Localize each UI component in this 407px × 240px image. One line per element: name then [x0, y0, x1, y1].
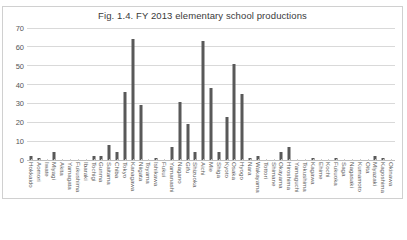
- bar-slot: [184, 28, 192, 160]
- x-axis-tick-mark: [94, 159, 95, 161]
- x-axis-tick-mark: [39, 159, 40, 161]
- x-axis-tick-label: Chiba: [114, 162, 120, 178]
- x-axis-tick-label: Nara: [247, 162, 253, 175]
- bar[interactable]: [108, 145, 111, 160]
- x-axis-label-slot: Hiroshima: [285, 161, 293, 202]
- x-axis-tick-label: Hiroshima: [286, 162, 292, 190]
- x-axis-tick-mark: [62, 159, 63, 161]
- x-axis-tick-mark: [227, 159, 228, 161]
- bar-slot: [301, 28, 309, 160]
- x-axis-tick-mark: [336, 159, 337, 161]
- bar-slot: [270, 28, 278, 160]
- y-axis-tick-label: 50: [16, 61, 24, 70]
- y-axis-tick-label: 60: [16, 42, 24, 51]
- bar-slot: [285, 28, 293, 160]
- bar-slot: [191, 28, 199, 160]
- x-axis-label-slot: Shimane: [270, 161, 278, 202]
- x-axis-label-slot: Shizuoka: [191, 161, 199, 202]
- bar[interactable]: [123, 92, 126, 160]
- y-axis-tick-label: 10: [16, 137, 24, 146]
- x-axis-label-slot: Tokyo: [121, 161, 129, 202]
- x-axis-tick-mark: [156, 159, 157, 161]
- x-axis-label-slot: Niigata: [137, 161, 145, 202]
- x-axis-tick-label: Osaka: [231, 162, 237, 180]
- x-axis-label-slot: Nagano: [176, 161, 184, 202]
- x-axis-tick-label: Yamaguchi: [294, 162, 300, 193]
- y-axis-tick-label: 40: [16, 80, 24, 89]
- bar-slot: [43, 28, 51, 160]
- bar-slot: [293, 28, 301, 160]
- x-axis-tick-mark: [289, 159, 290, 161]
- x-axis-label-slot: Akita: [58, 161, 66, 202]
- bar-slot: [74, 28, 82, 160]
- x-axis-tick-label: Saga: [341, 162, 347, 176]
- x-axis-label-slot: Ishikawa: [152, 161, 160, 202]
- x-axis-tick-label: Niigata: [137, 162, 143, 181]
- bar[interactable]: [186, 124, 189, 160]
- x-axis-tick-label: Kanagawa: [130, 162, 136, 191]
- bar[interactable]: [233, 64, 236, 160]
- bar-slot: [223, 28, 231, 160]
- x-axis-label-slot: Gifu: [184, 161, 192, 202]
- x-axis-label-slot: Hyogo: [238, 161, 246, 202]
- x-axis-tick-mark: [234, 159, 235, 161]
- x-axis-tick-label: Ehime: [317, 162, 323, 180]
- x-axis-tick-label: Toyama: [145, 162, 151, 184]
- x-axis-tick-label: Aomori: [36, 162, 42, 182]
- x-axis-tick-label: Kagoshima: [380, 162, 386, 193]
- x-axis-tick-label: Saitama: [106, 162, 112, 185]
- x-axis-tick-mark: [219, 159, 220, 161]
- x-axis-tick-mark: [180, 159, 181, 161]
- x-axis-label-slot: Kyoto: [223, 161, 231, 202]
- bar[interactable]: [225, 117, 228, 160]
- bar[interactable]: [178, 102, 181, 160]
- x-axis-tick-mark: [281, 159, 282, 161]
- x-axis-tick-mark: [368, 159, 369, 161]
- bar-slot: [121, 28, 129, 160]
- bar-slot: [254, 28, 262, 160]
- x-axis-tick-label: Shizuoka: [192, 162, 198, 187]
- y-axis-tick-label: 30: [16, 99, 24, 108]
- x-axis-tick-label: Akita: [59, 162, 65, 176]
- x-axis-label-slot: Fukui: [160, 161, 168, 202]
- bar[interactable]: [241, 94, 244, 160]
- x-axis-label-slot: Kagoshima: [379, 161, 387, 202]
- x-axis-label-slot: Wakayama: [254, 161, 262, 202]
- x-axis-tick-label: Shimane: [271, 162, 277, 186]
- x-axis-tick-mark: [148, 159, 149, 161]
- x-axis-tick-mark: [31, 159, 32, 161]
- bar-slot: [199, 28, 207, 160]
- x-axis-label-slot: Shiga: [215, 161, 223, 202]
- x-axis-tick-label: Fukuoka: [333, 162, 339, 186]
- x-axis-tick-label: Aichi: [200, 162, 206, 175]
- x-axis-tick-label: Gunma: [98, 162, 104, 182]
- bar-series: [27, 28, 395, 160]
- x-axis-label-slot: Mie: [207, 161, 215, 202]
- x-axis-tick-mark: [360, 159, 361, 161]
- x-axis-label-slot: Saga: [340, 161, 348, 202]
- bar[interactable]: [202, 41, 205, 160]
- bar-slot: [90, 28, 98, 160]
- x-axis-label-slot: Miyagi: [50, 161, 58, 202]
- x-axis-tick-label: Oita: [364, 162, 370, 173]
- bar-slot: [364, 28, 372, 160]
- bar[interactable]: [209, 88, 212, 160]
- x-axis-tick-mark: [313, 159, 314, 161]
- bar-slot: [262, 28, 270, 160]
- bar-slot: [113, 28, 121, 160]
- x-axis-label-slot: Kochi: [325, 161, 333, 202]
- x-axis-tick-mark: [86, 159, 87, 161]
- x-axis-tick-mark: [188, 159, 189, 161]
- bar-slot: [387, 28, 395, 160]
- x-axis-tick-mark: [117, 159, 118, 161]
- x-axis-tick-mark: [101, 159, 102, 161]
- bar-slot: [160, 28, 168, 160]
- x-axis-tick-label: Kyoto: [224, 162, 230, 178]
- x-axis-tick-mark: [391, 159, 392, 161]
- x-axis-label-slot: Aichi: [199, 161, 207, 202]
- x-axis-tick-label: Iwate: [43, 162, 49, 177]
- bar[interactable]: [139, 105, 142, 160]
- bar[interactable]: [131, 39, 134, 160]
- x-axis-tick-label: Okinawa: [388, 162, 394, 186]
- x-axis-tick-mark: [125, 159, 126, 161]
